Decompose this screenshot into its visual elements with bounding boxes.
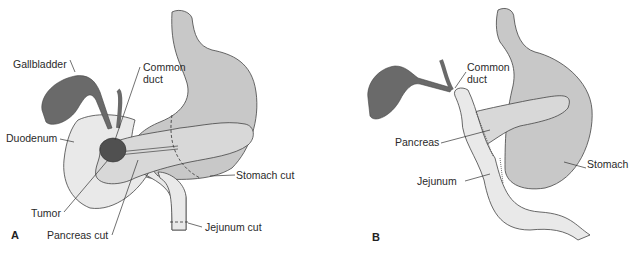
- panel-letter-b: B: [372, 231, 380, 243]
- label-stomach-cut: Stomach cut: [236, 170, 294, 181]
- gallbladder-b: [368, 66, 452, 119]
- label-jejunum-cut: Jejunum cut: [205, 222, 262, 233]
- label-jejunum: Jejunum: [417, 176, 457, 187]
- label-common-duct-a-line2: duct: [143, 74, 163, 85]
- panel-b-illustration: [368, 8, 592, 240]
- label-common-duct-b-line1: Common: [467, 62, 510, 73]
- label-common-duct-a-line1: Common: [143, 62, 186, 73]
- diagram-canvas: [0, 0, 634, 254]
- label-gallbladder-a: Gallbladder: [13, 59, 67, 70]
- label-stomach: Stomach: [587, 159, 628, 170]
- label-duodenum: Duodenum: [6, 133, 57, 144]
- label-tumor: Tumor: [31, 208, 61, 219]
- label-pancreas-cut: Pancreas cut: [47, 230, 108, 241]
- panel-letter-a: A: [11, 229, 19, 241]
- tumor-a: [100, 138, 126, 162]
- panel-a-illustration: [42, 10, 257, 235]
- label-common-duct-b-line2: duct: [467, 74, 487, 85]
- label-pancreas: Pancreas: [395, 137, 439, 148]
